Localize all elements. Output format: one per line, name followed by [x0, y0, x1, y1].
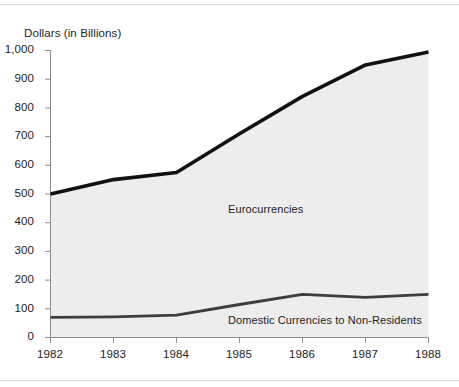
series-label-domestic-currencies: Domestic Currencies to Non-Residents [228, 314, 422, 326]
y-axis-ticks [45, 51, 50, 338]
y-tick-label-600: 600 [0, 158, 34, 170]
y-tick-label-800: 800 [0, 101, 34, 113]
x-tick-label-1988: 1988 [403, 348, 453, 360]
y-tick-label-200: 200 [0, 273, 34, 285]
y-tick-label-700: 700 [0, 129, 34, 141]
y-tick-label-400: 400 [0, 215, 34, 227]
chart-figure: Dollars (in Billions) [0, 0, 459, 387]
x-axis-ticks [51, 338, 429, 344]
x-tick-label-1984: 1984 [151, 348, 201, 360]
y-tick-label-0: 0 [0, 330, 34, 342]
y-tick-label-100: 100 [0, 302, 34, 314]
x-tick-label-1983: 1983 [88, 348, 138, 360]
chart-plot-area [0, 0, 459, 387]
y-tick-label-500: 500 [0, 187, 34, 199]
x-tick-label-1982: 1982 [25, 348, 75, 360]
x-tick-label-1986: 1986 [277, 348, 327, 360]
y-tick-label-300: 300 [0, 244, 34, 256]
series-label-eurocurrencies: Eurocurrencies [228, 203, 303, 215]
x-tick-label-1985: 1985 [214, 348, 264, 360]
y-tick-label-1000: 1,000 [0, 43, 34, 55]
y-tick-label-900: 900 [0, 72, 34, 84]
x-tick-label-1987: 1987 [340, 348, 390, 360]
eurocurrencies-area-fill-region [51, 52, 429, 338]
